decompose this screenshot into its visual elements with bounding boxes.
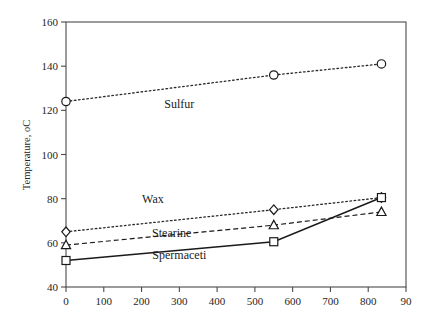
marker-square: [62, 257, 70, 265]
y-axis-title: Temperature, oC: [21, 120, 32, 190]
x-tick-label: 500: [247, 295, 264, 307]
series-label-stearine: Stearine: [152, 226, 191, 240]
y-tick-label: 120: [42, 104, 59, 116]
x-axis-tick-labels: 010020030040050060070080090: [63, 295, 412, 307]
y-tick-label: 140: [42, 60, 59, 72]
y-tick-label: 40: [47, 281, 59, 293]
marker-square: [377, 194, 385, 202]
series-label-sulfur: Sulfur: [164, 97, 194, 111]
x-tick-label: 600: [284, 295, 301, 307]
series-markers-group: [61, 60, 386, 265]
x-tick-label: 100: [96, 295, 113, 307]
chart-canvas: 406080100120140160 010020030040050060070…: [0, 0, 424, 318]
x-tick-label: 0: [63, 295, 69, 307]
y-tick-label: 100: [42, 149, 59, 161]
y-axis-tick-labels: 406080100120140160: [42, 16, 59, 293]
x-tick-label: 800: [360, 295, 377, 307]
plot-frame: [66, 22, 406, 287]
marker-circle: [270, 71, 278, 79]
x-axis-ticks: [66, 287, 406, 292]
marker-circle: [377, 60, 385, 68]
series-label-spermaceti: Spermaceti: [152, 248, 207, 262]
series-label-wax: Wax: [142, 192, 164, 206]
x-tick-label: 400: [209, 295, 226, 307]
x-tick-label: 200: [133, 295, 150, 307]
series-line-sulfur: [66, 64, 381, 102]
x-tick-label: 700: [322, 295, 339, 307]
y-tick-label: 160: [42, 16, 59, 28]
marker-circle: [62, 97, 70, 105]
y-tick-label: 60: [47, 237, 59, 249]
x-tick-label: 300: [171, 295, 188, 307]
line-chart: 406080100120140160 010020030040050060070…: [0, 0, 424, 318]
series-line-wax: [66, 198, 381, 232]
marker-diamond: [270, 205, 278, 215]
marker-square: [270, 238, 278, 246]
y-tick-label: 80: [47, 193, 59, 205]
series-labels-group: SulfurWaxStearineSpermaceti: [142, 97, 207, 262]
series-line-spermaceti: [66, 198, 381, 261]
marker-diamond: [62, 227, 70, 237]
marker-triangle: [377, 207, 386, 215]
series-lines-group: [66, 64, 381, 261]
x-tick-label: 90: [401, 295, 413, 307]
